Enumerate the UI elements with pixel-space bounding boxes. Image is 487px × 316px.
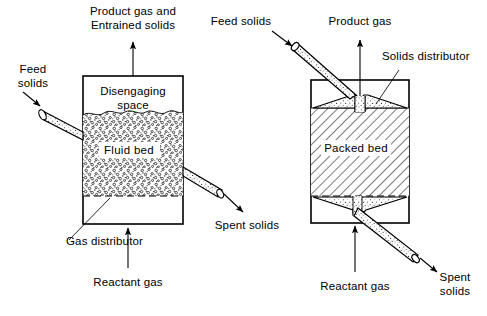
feed-solids-pipe-right <box>290 41 356 99</box>
process-diagram-figure: Product gas and Entrained solids Feed so… <box>0 0 487 316</box>
fluid-bed-diagram: Product gas and Entrained solids Feed so… <box>18 5 279 288</box>
spent-solids-pipe-right <box>354 208 421 264</box>
label-feed-solids-line1: Feed <box>20 63 47 75</box>
label-packed-bed: Packed bed <box>324 142 388 154</box>
label-solids-distributor: Solids distributor <box>382 50 470 62</box>
label-reactant-gas: Reactant gas <box>93 276 163 288</box>
feed-solids-pipe <box>37 109 83 140</box>
label-spent-solids-right-line1: Spent <box>440 271 471 283</box>
label-product-gas-line1: Product gas and <box>90 5 176 17</box>
label-reactant-gas-right: Reactant gas <box>320 280 390 292</box>
distributor-stem-fill <box>355 96 365 112</box>
label-disengaging-line2: space <box>117 99 148 111</box>
packed-bed-diagram: Feed solids Product gas Solids distribut… <box>211 15 471 297</box>
spent-solids-arrow-right <box>420 258 437 272</box>
label-spent-solids-right-line2: solids <box>440 285 470 297</box>
spent-solids-arrow <box>224 194 243 212</box>
label-feed-solids-line2: solids <box>18 77 48 89</box>
label-fluid-bed: Fluid bed <box>104 144 154 156</box>
spent-solids-pipe <box>183 167 225 199</box>
gas-distributor-leader <box>69 198 110 240</box>
label-gas-distributor: Gas distributor <box>66 235 143 247</box>
feed-solids-arrow-right <box>272 31 292 46</box>
diagram-canvas: Product gas and Entrained solids Feed so… <box>0 0 487 316</box>
feed-solids-arrow <box>23 92 40 106</box>
label-feed-solids-right: Feed solids <box>211 15 272 27</box>
label-spent-solids: Spent solids <box>215 219 280 231</box>
label-product-gas-right: Product gas <box>328 15 391 27</box>
label-product-gas-line2: Entrained solids <box>91 19 175 31</box>
solids-distributor-leader <box>376 70 399 104</box>
label-disengaging-line1: Disengaging <box>100 85 166 97</box>
